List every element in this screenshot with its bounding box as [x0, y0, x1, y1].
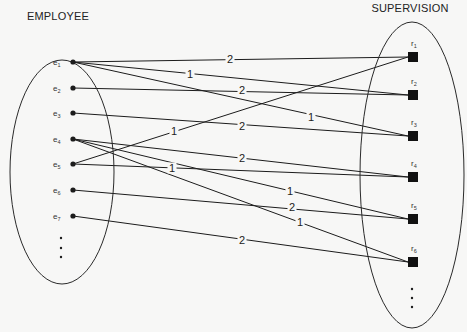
supervision-label-r2: r2: [411, 77, 417, 87]
supervision-square-icon: [408, 52, 418, 62]
edge-e5-r4: [73, 164, 408, 177]
employee-dot-icon: [70, 110, 75, 115]
edge-e6-r5: [73, 190, 408, 219]
edge-label-e7-r6: 2: [239, 234, 245, 246]
supervision-label-r6: r6: [411, 244, 417, 254]
edge-labels-layer: 211221211212: [168, 53, 316, 246]
edge-label-e6-r5: 2: [289, 201, 295, 213]
right-set-ellipsis-dot: [411, 297, 413, 299]
employee-dot-icon: [70, 161, 75, 166]
supervision-square-icon: [408, 90, 418, 100]
left-set-ellipse: [10, 60, 114, 284]
supervision-square-icon: [408, 214, 418, 224]
employee-label-e2: e2: [53, 84, 61, 94]
employee-node-e2: e2: [53, 84, 76, 94]
edge-label-e4-r5: 1: [287, 185, 293, 197]
sets-layer: EMPLOYEESUPERVISION: [10, 2, 464, 328]
left-set-title: EMPLOYEE: [27, 10, 89, 22]
employee-dot-icon: [70, 213, 75, 218]
edge-label-e1-r2: 1: [187, 68, 193, 80]
employee-dot-icon: [70, 187, 75, 192]
employee-dot-icon: [70, 59, 75, 64]
edge-label-e1-r3: 1: [308, 111, 314, 123]
left-set-ellipsis-dot: [60, 247, 62, 249]
supervision-label-r5: r5: [411, 201, 417, 211]
employee-label-e1: e1: [53, 58, 61, 68]
employee-node-e5: e5: [53, 160, 76, 170]
edge-label-e2-r2: 2: [239, 84, 245, 96]
edge-label-e1-r1: 2: [227, 53, 233, 65]
edge-label-e4-r6: 1: [297, 216, 303, 228]
left-set: EMPLOYEE: [10, 10, 114, 284]
supervision-node-r1: r1: [408, 39, 418, 62]
supervision-label-r1: r1: [411, 39, 417, 49]
supervision-label-r3: r3: [411, 118, 417, 128]
employee-node-e6: e6: [53, 186, 76, 196]
edge-label-e5-r1: 1: [171, 125, 177, 137]
supervision-node-r5: r5: [408, 201, 418, 224]
supervision-diagram: 211221211212 EMPLOYEESUPERVISION e1e2e3e…: [0, 0, 467, 332]
supervision-square-icon: [408, 131, 418, 141]
employee-label-e4: e4: [53, 135, 61, 145]
right-set-title: SUPERVISION: [371, 2, 448, 14]
supervision-node-r3: r3: [408, 118, 418, 141]
edge-label-e5-r4: 1: [169, 162, 175, 174]
edge-e1-r1: [73, 57, 408, 62]
employee-node-e1: e1: [53, 58, 76, 68]
supervision-square-icon: [408, 172, 418, 182]
left-set-ellipsis-dot: [60, 256, 62, 258]
employee-dot-icon: [70, 136, 75, 141]
employee-label-e5: e5: [53, 160, 61, 170]
employee-node-e7: e7: [53, 212, 76, 222]
edge-label-e3-r3: 2: [239, 120, 245, 132]
supervision-label-r4: r4: [411, 159, 417, 169]
edge-label-e4-r4: 2: [239, 152, 245, 164]
employee-node-e4: e4: [53, 135, 76, 145]
supervision-node-r2: r2: [408, 77, 418, 100]
employee-node-e3: e3: [53, 109, 76, 119]
right-set-ellipsis-dot: [411, 288, 413, 290]
supervision-node-r6: r6: [408, 244, 418, 267]
supervision-square-icon: [408, 257, 418, 267]
right-set-ellipsis-dot: [411, 306, 413, 308]
supervision-node-r4: r4: [408, 159, 418, 182]
employee-dot-icon: [70, 85, 75, 90]
edge-e4-r5: [73, 139, 408, 219]
employee-label-e6: e6: [53, 186, 61, 196]
left-set-ellipsis-dot: [60, 237, 62, 239]
employee-label-e7: e7: [53, 212, 61, 222]
employee-label-e3: e3: [53, 109, 61, 119]
